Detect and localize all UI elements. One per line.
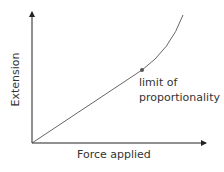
limit-point xyxy=(140,68,144,72)
annotation-line2: proportionality xyxy=(139,91,220,104)
y-axis-label: Extension xyxy=(9,50,22,110)
graph xyxy=(0,0,224,172)
annotation-line1: limit of xyxy=(139,76,177,89)
x-axis-label: Force applied xyxy=(77,148,151,161)
